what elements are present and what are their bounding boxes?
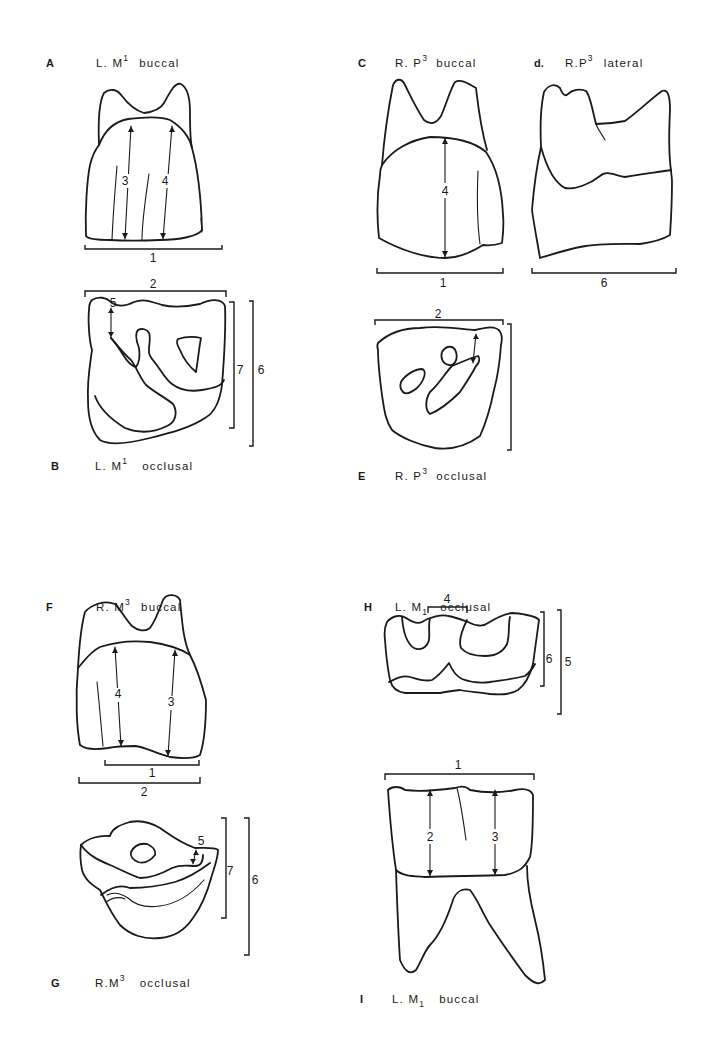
measure-bracket-6 [249, 301, 253, 446]
panel-letter: G [51, 977, 60, 989]
crown-outline [77, 641, 206, 758]
tooth-outline [88, 298, 225, 444]
measure-bracket-6 [532, 268, 676, 273]
crown-outline [86, 117, 202, 241]
panel-a: A L. M1buccal 3 4 1 [46, 53, 222, 265]
measure-label: 3 [168, 695, 175, 709]
groove-line [457, 788, 466, 840]
measure-label: 2 [141, 785, 148, 799]
fossa-outline [400, 369, 424, 393]
measure-bracket-7 [221, 818, 226, 918]
measure-label: 7 [227, 864, 234, 878]
panel-caption: L. M1buccal [96, 53, 180, 69]
measure-bracket-1 [385, 774, 534, 780]
measure-label: 4 [444, 592, 451, 606]
measure-label: 4 [115, 687, 122, 701]
tooth-measurement-figure: A L. M1buccal 3 4 1 2 5 7 6 B L. M1occlu… [0, 0, 710, 1060]
crown-outline [541, 85, 671, 188]
panel-caption: R.P3lateral [565, 53, 643, 69]
root-outline [396, 866, 545, 983]
measure-bracket-2 [85, 291, 226, 297]
panel-b: 2 5 7 6 B L. M1occlusal [51, 277, 265, 472]
ridge-line [106, 898, 125, 902]
measure-label: 1 [455, 758, 462, 772]
panel-f: F R. M3buccal 4 3 1 2 [46, 595, 206, 799]
measure-label: 2 [435, 307, 442, 321]
measure-label: 2 [427, 830, 434, 844]
measure-label: 5 [110, 296, 117, 310]
fossa-outline [111, 329, 224, 391]
panel-e: 2 E R. P3occlusal [358, 307, 511, 482]
panel-caption: R. M3buccal [96, 597, 181, 613]
crown-outline [388, 787, 533, 877]
measure-bracket-1 [377, 268, 503, 273]
measure-label: 1 [440, 276, 447, 290]
measure-label: 4 [162, 174, 169, 188]
measure-bracket-2 [79, 777, 200, 783]
panel-h: H L. M1occlusal 4 6 5 [364, 592, 572, 714]
panel-c: C R. P3buccal 4 1 [358, 53, 503, 290]
tooth-outline [377, 327, 502, 449]
measure-label: 7 [237, 363, 244, 377]
measure-label: 1 [150, 251, 157, 265]
measure-label: 3 [492, 830, 499, 844]
panel-caption: R.M3occlusal [95, 973, 191, 989]
tooth-outline [385, 613, 539, 695]
tooth-outline [99, 84, 192, 148]
fossa-outline [441, 347, 456, 365]
root-outline [532, 147, 672, 258]
measure-bracket-7 [229, 302, 234, 428]
groove-line [142, 174, 149, 240]
fossa-outline [177, 337, 201, 372]
measure-label: 2 [150, 277, 157, 291]
measure-bracket-1 [105, 760, 199, 765]
cusp-ridge-outline [81, 845, 203, 878]
groove-line [97, 682, 103, 746]
measure-label: 4 [442, 184, 449, 198]
panel-d: d. R.P3lateral 6 [532, 53, 676, 290]
fossa-outline [131, 844, 155, 863]
panel-caption: L. M1occlusal [95, 456, 193, 472]
measure-bracket-6 [540, 612, 544, 686]
measure-bracket-1 [85, 245, 222, 249]
cusp-outline [95, 338, 176, 432]
measure-label: 6 [546, 652, 553, 666]
panel-caption: L. M1buccal [392, 993, 480, 1009]
groove-line [596, 124, 605, 140]
panel-i: 1 2 3 I L. M1buccal [360, 758, 545, 1009]
panel-letter: B [51, 460, 59, 472]
cusp-ridge-outline [389, 663, 535, 683]
ridge-line [107, 880, 204, 907]
panel-letter: d. [534, 57, 544, 69]
panel-letter: F [46, 601, 53, 613]
tooth-outline [382, 80, 487, 165]
groove-line [477, 171, 480, 244]
measure-bracket [507, 324, 511, 450]
measure-bracket-5 [557, 610, 561, 714]
panel-g: 5 7 6 G R.M3occlusal [51, 818, 259, 989]
panel-caption: R. P3occlusal [395, 466, 487, 482]
panel-letter: E [358, 470, 365, 482]
measure-label: 5 [198, 834, 205, 848]
fossa-outline [460, 617, 510, 656]
measure-bracket-6 [244, 818, 249, 955]
measure-label: 1 [149, 766, 156, 780]
panel-letter: A [46, 57, 54, 69]
measure-label: 6 [252, 873, 259, 887]
panel-letter: C [358, 57, 366, 69]
measure-label: 5 [565, 655, 572, 669]
measure-label: 6 [601, 276, 608, 290]
panel-letter: I [360, 993, 363, 1005]
groove-line [112, 166, 117, 240]
panel-letter: H [364, 601, 372, 613]
measure-label: 3 [122, 174, 129, 188]
panel-caption: R. P3buccal [395, 53, 477, 69]
measure-label: 6 [258, 363, 265, 377]
